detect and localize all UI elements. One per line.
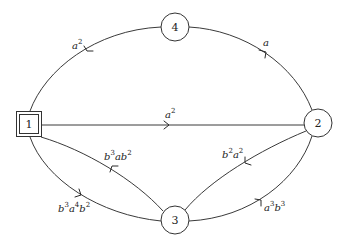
node-3: 3 xyxy=(161,206,189,234)
node-1: 1 xyxy=(17,112,42,137)
edge-2-to-4: a xyxy=(189,27,312,110)
edge-4-to-1: a2 xyxy=(30,27,161,111)
node-2: 2 xyxy=(304,109,332,137)
edge-label-3-1: b3ab2 xyxy=(104,149,132,162)
edge-label-4-1: a2 xyxy=(72,38,82,51)
edge-label-3-2: a3b3 xyxy=(264,200,285,213)
node-1-label: 1 xyxy=(26,118,33,131)
edge-label-1-3: b3a4b2 xyxy=(58,201,90,214)
node-4-label: 4 xyxy=(172,21,179,34)
node-4: 4 xyxy=(161,13,189,41)
edge-label-1-2: a2 xyxy=(165,107,175,120)
edge-3-to-1: b3ab2 xyxy=(41,137,163,211)
state-diagram: a2 a a2 b3ab2 b3a4b2 b2a2 a3b3 1 xyxy=(0,0,348,249)
edge-label-2-4: a xyxy=(263,37,269,48)
edge-3-to-2: a3b3 xyxy=(189,136,312,221)
node-3-label: 3 xyxy=(172,214,179,227)
arrowhead-icon xyxy=(259,50,266,58)
edge-1-to-3: b3a4b2 xyxy=(30,137,161,221)
edge-label-2-3: b2a2 xyxy=(222,147,243,160)
edge-2-to-3: b2a2 xyxy=(185,131,306,210)
node-2-label: 2 xyxy=(315,117,322,130)
edge-1-to-2: a2 xyxy=(42,107,304,129)
